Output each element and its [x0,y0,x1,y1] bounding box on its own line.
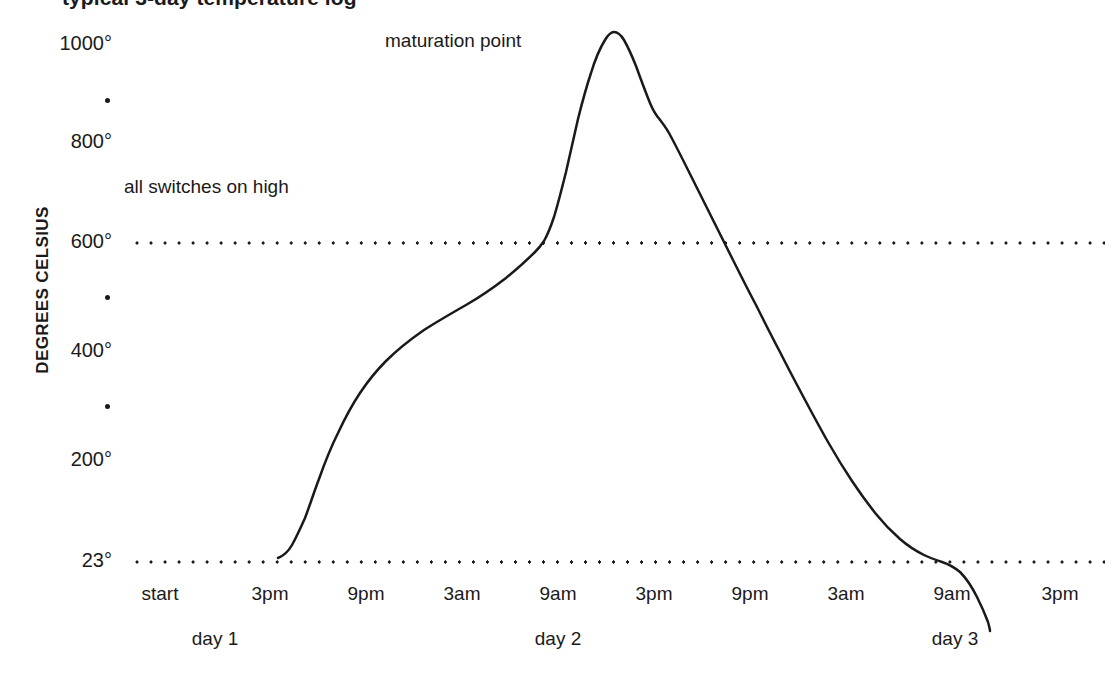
y-tick-label-800: 800° [36,130,112,153]
annotation-all-switches-on-high: all switches on high [124,176,289,198]
x-tick-label-9am-day2: 9am [518,583,598,605]
y-tick-label-600: 600° [36,230,112,253]
x-tick-label-3am-day3: 3am [806,583,886,605]
annotation-maturation-point: maturation point [385,30,521,52]
temperature-chart: typical 3-day temperature log DEGREES CE… [0,0,1113,685]
y-tick-label-1000: 1000° [36,32,112,55]
x-tick-label-start: start [120,583,200,605]
x-tick-label-3pm-day3: 3pm [1020,583,1100,605]
x-tick-label-3am-day2: 3am [422,583,502,605]
dotted-rule-600-degrees [130,241,1105,245]
temperature-curve-path [278,32,990,631]
day-group-label-1: day 1 [160,628,270,650]
y-minor-dot-900 [105,98,110,103]
day-group-label-2: day 2 [503,628,613,650]
day-group-label-3: day 3 [900,628,1010,650]
x-tick-label-9pm-day1: 9pm [326,583,406,605]
dotted-rule-baseline-23-degrees [130,560,1105,564]
y-axis-title: DEGREES CELSIUS [33,185,53,395]
y-tick-label-200: 200° [36,448,112,471]
x-tick-label-3pm-day1: 3pm [230,583,310,605]
y-tick-label-23: 23° [36,549,112,572]
y-tick-label-400: 400° [36,339,112,362]
y-minor-dot-300 [105,404,110,409]
x-tick-label-3pm-day2: 3pm [614,583,694,605]
x-tick-label-9am-day3: 9am [912,583,992,605]
y-minor-dot-500 [105,295,110,300]
chart-title: typical 3-day temperature log [62,0,357,10]
x-tick-label-9pm-day2: 9pm [710,583,790,605]
